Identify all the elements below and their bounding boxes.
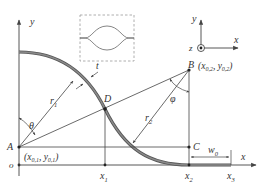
phi-label: φ [170,93,176,104]
y-axis-label: y [29,16,35,27]
tick-x3-label: x3 [226,170,235,183]
r1-label: r1 [50,95,57,108]
theta-label: θ [29,120,34,131]
thickness-arrow-inner [76,84,83,89]
inset-lens-bottom [80,38,134,50]
diagram-canvas: y x o r1 r2 θ φ t A (x0,1, y0,1) B (x0,2… [0,0,262,187]
cs-z-label: z [188,43,193,53]
origin-label: o [9,160,14,170]
tick-x2-label: x2 [184,170,193,183]
point-B-label: B [188,59,194,70]
point-A-coords: (x0,1, y0,1) [24,152,59,163]
origin-point [18,164,21,167]
cs-y-label: y [191,13,197,24]
point-A-label: A [6,141,14,152]
r2-arrow [133,70,189,143]
point-A [17,145,20,148]
cs-z-dot [200,47,203,50]
phi-arc [170,79,189,92]
tick-x2 [188,164,191,167]
point-C [187,145,190,148]
cs-x-label: x [233,34,239,45]
tick-x1-label: x1 [99,170,108,183]
point-D-label: D [103,93,112,104]
point-B-coords: (x0,2, y0,2) [198,61,233,72]
thickness-label: t [96,61,99,71]
tick-x1 [104,164,107,167]
point-D [103,107,107,111]
r2-label: r2 [145,112,153,125]
inset-lens-top [80,26,134,38]
thickness-arrow-outer [91,72,98,77]
r1-arrow [19,81,73,147]
x-axis-label: x [240,151,246,162]
inset-box [80,15,134,61]
point-C-label: C [193,141,200,152]
w0-label: w0 [208,144,219,157]
